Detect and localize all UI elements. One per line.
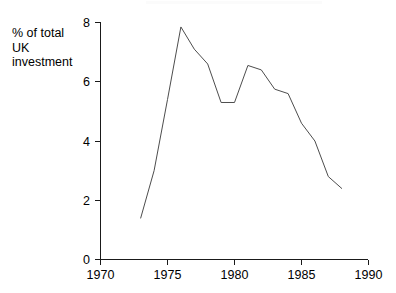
data-line-series-0 <box>141 27 342 218</box>
chart-canvas: 8 6 4 2 0 1970 1975 1980 1985 1990 <box>0 0 396 293</box>
x-tick-group <box>101 260 369 266</box>
x-tick-label-1980: 1980 <box>221 268 249 282</box>
y-tick-label-4: 4 <box>83 135 90 149</box>
x-tick-label-1985: 1985 <box>288 268 316 282</box>
y-tick-label-6: 6 <box>83 75 90 89</box>
chart-figure: % of total UK investment 8 6 4 2 0 <box>0 0 396 293</box>
y-tick-label-0: 0 <box>83 253 90 267</box>
x-tick-label-1975: 1975 <box>154 268 182 282</box>
y-tick-label-8: 8 <box>83 16 90 30</box>
x-tick-label-group: 1970 1975 1980 1985 1990 <box>87 268 383 282</box>
y-tick-group <box>95 23 101 260</box>
y-tick-label-group: 8 6 4 2 0 <box>83 16 90 267</box>
y-tick-label-2: 2 <box>83 194 90 208</box>
x-tick-label-1990: 1990 <box>355 268 383 282</box>
x-tick-label-1970: 1970 <box>87 268 115 282</box>
